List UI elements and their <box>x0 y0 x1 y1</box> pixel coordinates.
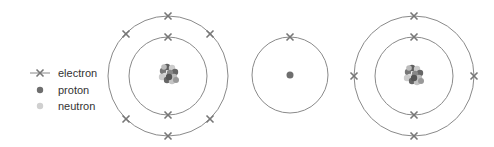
atom-3 <box>351 13 478 140</box>
legend-label: electron <box>58 67 97 79</box>
legend-label: neutron <box>58 100 95 112</box>
proton-icon <box>287 72 294 79</box>
legend-item-electron: electron <box>30 67 97 79</box>
legend-item-proton: proton <box>37 84 89 96</box>
legend-item-neutron: neutron <box>37 100 96 112</box>
proton-icon <box>37 87 43 93</box>
nucleus-icon <box>159 64 179 84</box>
atom-1 <box>108 13 228 140</box>
nucleus-icon <box>404 65 424 85</box>
legend-label: proton <box>58 84 89 96</box>
atom-diagram: electron proton neutron <box>0 0 494 147</box>
legend: electron proton neutron <box>30 67 97 112</box>
electron-icon <box>207 116 214 123</box>
electron-icon <box>123 31 130 38</box>
electron-icon <box>207 31 214 38</box>
electron-icon <box>123 116 130 123</box>
atom-2 <box>252 34 328 114</box>
neutron-icon <box>37 103 43 109</box>
